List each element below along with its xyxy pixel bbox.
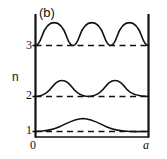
y-tick-label-3: 3 (21, 39, 32, 51)
x-tick-label-width: a (143, 139, 149, 151)
y-tick-label-2: 2 (21, 89, 32, 101)
y-axis-label: n (12, 71, 19, 83)
y-tick-label-1: 1 (21, 124, 32, 136)
panel-label: (b) (39, 6, 55, 19)
curve-n1 (36, 119, 149, 132)
curve-n3 (36, 23, 149, 46)
figure-panel-b: (b) n 3 2 1 0 a (0, 0, 167, 159)
curve-n2 (36, 81, 149, 97)
x-tick-label-origin: 0 (30, 139, 36, 151)
